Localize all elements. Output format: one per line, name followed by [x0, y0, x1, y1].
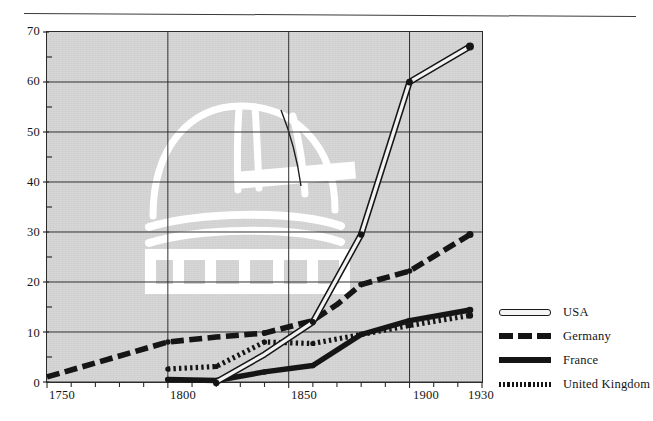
legend-label-usa: USA [553, 305, 589, 320]
legend-item-germany[interactable]: Germany [497, 324, 649, 348]
usa-line-key-icon [497, 305, 553, 319]
x-tick-label-1800: 1800 [170, 388, 196, 402]
germany-line-key-icon [497, 329, 553, 343]
x-tick-label-1850: 1850 [291, 388, 317, 402]
y-axis-labels: 70 60 50 40 30 20 10 0 [0, 31, 40, 383]
legend-label-united-kingdom: United Kingdom [553, 377, 650, 392]
chart-figure: 70 60 50 40 30 20 10 0 1750 1800 1850 19… [0, 0, 653, 421]
header-rule [24, 13, 636, 17]
legend-item-usa[interactable]: USA [497, 300, 649, 324]
x-tick-label-1930: 1930 [468, 388, 494, 402]
legend-item-france[interactable]: France [497, 348, 649, 372]
united-kingdom-line-key-icon [497, 377, 553, 391]
y-axis-minor-ticks [47, 57, 52, 357]
y-tick-label-20: 20 [6, 276, 40, 288]
y-tick-label-10: 10 [6, 327, 40, 339]
y-tick-label-40: 40 [6, 176, 40, 188]
grid-lines-horizontal [47, 82, 482, 382]
legend-label-germany: Germany [553, 329, 611, 344]
y-tick-label-30: 30 [6, 226, 40, 238]
plot-area [46, 31, 483, 383]
legend-label-france: France [553, 353, 598, 368]
chart-canvas [47, 32, 482, 382]
chart-legend: USA Germany France United Kingdom [497, 300, 649, 396]
y-tick-label-60: 60 [6, 75, 40, 87]
x-tick-label-1750: 1750 [49, 388, 75, 402]
legend-item-united-kingdom[interactable]: United Kingdom [497, 372, 649, 396]
france-line-key-icon [497, 353, 553, 367]
y-tick-label-70: 70 [6, 25, 40, 37]
x-tick-label-1900: 1900 [413, 388, 439, 402]
y-tick-label-50: 50 [6, 126, 40, 138]
